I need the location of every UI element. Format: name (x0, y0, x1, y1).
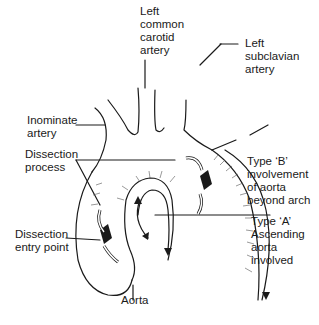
label-dissection-entry-point: Dissection entry point (15, 228, 69, 254)
inominate-artery-outline (92, 108, 106, 172)
leader-type-b (250, 125, 268, 135)
dissection-arrows (99, 158, 270, 300)
aorta-inner-wall (125, 178, 174, 280)
label-left-subclavian-artery: Left subclavian artery (245, 37, 299, 76)
aortic-dissection-diagram: Left common carotid artery Left subclavi… (0, 0, 319, 325)
leader-entry (66, 238, 100, 240)
left-subclavian-outline (184, 100, 212, 150)
label-type-a: Type ‘A’ Ascending aorta involved (251, 215, 305, 267)
label-inominate-artery: Inominate artery (27, 114, 78, 140)
wall-hatching (91, 155, 254, 272)
label-type-b: Type ‘B’ involvement of aorta beyond arc… (247, 155, 310, 207)
type-a-arrow-curve (138, 190, 169, 250)
left-carotid-outline (155, 90, 164, 132)
label-dissection-process: Dissection process (25, 148, 78, 174)
label-aorta: Aorta (121, 294, 149, 307)
label-left-common-carotid-artery: Left common carotid artery (140, 5, 184, 57)
